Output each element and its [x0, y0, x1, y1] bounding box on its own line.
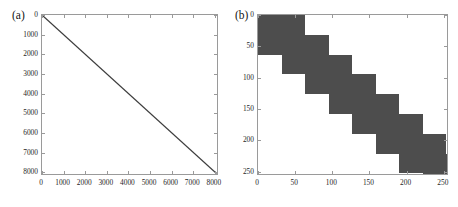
y-tick-right	[214, 35, 217, 36]
x-tick-top	[107, 15, 108, 18]
y-tick-label: 8000	[0, 167, 38, 176]
y-tick-right	[444, 15, 447, 16]
x-tick-label: 150	[363, 178, 374, 187]
x-tick-top	[295, 15, 296, 18]
y-tick-right	[444, 140, 447, 141]
panel-a-axes	[41, 14, 218, 175]
y-tick	[42, 113, 45, 114]
x-tick-label: 1000	[55, 178, 70, 187]
x-tick-label: 4000	[120, 178, 135, 187]
y-tick	[258, 78, 261, 79]
y-tick	[258, 172, 261, 173]
x-tick-top	[172, 15, 173, 18]
x-tick-label: 50	[290, 178, 297, 187]
y-tick	[258, 109, 261, 110]
x-tick-label: 0	[39, 178, 43, 187]
x-tick	[128, 171, 129, 174]
y-tick	[42, 153, 45, 154]
x-tick-label: 2000	[77, 178, 92, 187]
x-tick	[107, 171, 108, 174]
y-tick	[258, 15, 261, 16]
y-tick	[42, 35, 45, 36]
x-tick	[369, 171, 370, 174]
y-tick-label: 3000	[0, 68, 38, 77]
x-tick-label: 200	[400, 178, 411, 187]
y-tick-label: 0	[229, 10, 254, 19]
x-tick-label: 8000	[206, 178, 221, 187]
y-tick-label: 250	[229, 166, 254, 175]
x-tick	[332, 171, 333, 174]
y-tick	[42, 133, 45, 134]
y-tick-right	[214, 15, 217, 16]
figure-container: (a) 010002000300040005000600070008000010…	[0, 0, 458, 207]
y-tick-right	[214, 113, 217, 114]
x-tick-top	[332, 15, 333, 18]
x-tick-top	[85, 15, 86, 18]
y-tick-label: 1000	[0, 29, 38, 38]
y-tick-label: 7000	[0, 147, 38, 156]
y-tick	[258, 140, 261, 141]
y-tick-label: 2000	[0, 49, 38, 58]
y-tick-label: 6000	[0, 127, 38, 136]
x-tick-top	[369, 15, 370, 18]
y-tick-label: 50	[229, 41, 254, 50]
x-tick	[193, 171, 194, 174]
x-tick	[64, 171, 65, 174]
panel-a: (a) 010002000300040005000600070008000010…	[0, 0, 229, 207]
x-tick-top	[64, 15, 65, 18]
y-tick	[42, 74, 45, 75]
panel-b-axes	[257, 14, 448, 175]
y-tick-right	[444, 78, 447, 79]
x-tick	[150, 171, 151, 174]
x-tick-label: 100	[326, 178, 337, 187]
x-tick-label: 0	[255, 178, 259, 187]
y-tick-label: 100	[229, 72, 254, 81]
y-tick-right	[214, 74, 217, 75]
x-tick	[295, 171, 296, 174]
y-tick-right	[444, 46, 447, 47]
x-tick-top	[193, 15, 194, 18]
y-tick-right	[214, 54, 217, 55]
x-tick-label: 250	[437, 178, 448, 187]
y-tick-label: 200	[229, 135, 254, 144]
x-tick-top	[150, 15, 151, 18]
panel-a-diagonal-line	[42, 15, 217, 174]
y-tick-label: 0	[0, 10, 38, 19]
y-tick-label: 150	[229, 103, 254, 112]
y-tick	[42, 94, 45, 95]
x-tick-top	[128, 15, 129, 18]
x-tick-label: 7000	[185, 178, 200, 187]
y-tick-right	[444, 109, 447, 110]
y-tick	[42, 15, 45, 16]
y-tick-label: 4000	[0, 88, 38, 97]
panel-b: (b) 050100150200250050100150200250	[229, 0, 458, 207]
y-tick-right	[214, 94, 217, 95]
y-tick-right	[214, 172, 217, 173]
x-tick-label: 3000	[98, 178, 113, 187]
y-tick	[258, 46, 261, 47]
x-tick-top	[407, 15, 408, 18]
x-tick	[407, 171, 408, 174]
y-tick	[42, 54, 45, 55]
x-tick-label: 6000	[163, 178, 178, 187]
x-tick-label: 5000	[142, 178, 157, 187]
y-tick-label: 5000	[0, 108, 38, 117]
y-tick-right	[214, 133, 217, 134]
y-tick	[42, 172, 45, 173]
y-tick-right	[444, 172, 447, 173]
x-tick	[172, 171, 173, 174]
x-tick	[85, 171, 86, 174]
y-tick-right	[214, 153, 217, 154]
